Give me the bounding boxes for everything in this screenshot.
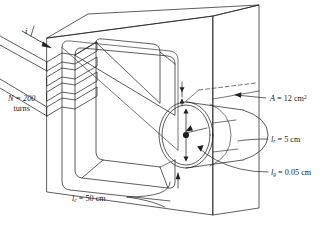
core-top-face bbox=[47, 5, 259, 38]
gap-subscript: g bbox=[273, 171, 276, 177]
magnetic-circuit-drawing bbox=[0, 0, 328, 245]
right-limb-edges bbox=[213, 91, 259, 152]
rotor-cylinder bbox=[186, 102, 268, 168]
core-length-label: lc = 50 cm bbox=[72, 194, 106, 204]
current-symbol: i bbox=[25, 26, 27, 36]
leader-rotor bbox=[238, 139, 268, 141]
lower-air-gap-dimension bbox=[176, 173, 181, 188]
turns-count: N = 200 bbox=[8, 94, 35, 103]
current-label: i bbox=[25, 26, 27, 36]
area-value: = 12 cm bbox=[277, 94, 304, 103]
area-label: A = 12 cm2 bbox=[270, 94, 307, 104]
leader-gap bbox=[197, 145, 268, 172]
turns-label: N = 200 turns bbox=[8, 94, 35, 113]
core-window-back bbox=[96, 39, 160, 167]
hidden-dashed-edge bbox=[186, 83, 256, 101]
figure-canvas: i N = 200 turns A = 12 cm2 lr = 5 cm lg … bbox=[0, 0, 328, 245]
rotor-subscript: r bbox=[273, 138, 275, 144]
leader-area bbox=[234, 92, 266, 98]
gap-value: = 0.05 cm bbox=[278, 168, 311, 177]
core-value: = 50 cm bbox=[79, 194, 106, 203]
core-subscript: c bbox=[74, 197, 76, 203]
area-symbol: A bbox=[270, 94, 275, 103]
air-gap-label: lg = 0.05 cm bbox=[271, 168, 311, 178]
core-front-face bbox=[47, 16, 213, 215]
area-exponent: 2 bbox=[304, 94, 307, 100]
rotor-value: = 5 cm bbox=[278, 135, 301, 144]
turns-unit: turns bbox=[14, 104, 30, 113]
rotor-length-label: lr = 5 cm bbox=[271, 135, 300, 145]
upper-air-gap-dimension bbox=[180, 82, 185, 106]
coil-winding bbox=[47, 42, 97, 116]
